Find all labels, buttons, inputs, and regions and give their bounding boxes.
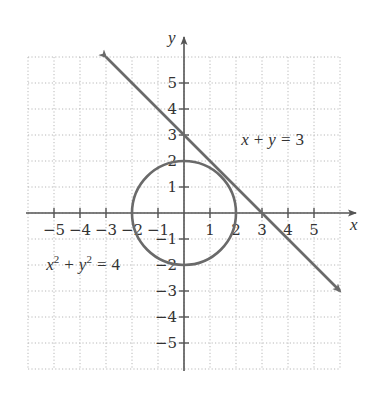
x-tick-label: 1 (205, 221, 215, 239)
y-tick-label: 3 (167, 126, 177, 144)
circle-equation-label: x2+y2=4 (45, 253, 120, 274)
y-axis-label: y (166, 28, 176, 47)
x-tick-label: −5 (43, 221, 65, 239)
y-tick-label: −1 (155, 230, 177, 248)
y-tick-label: 1 (167, 178, 177, 196)
x-tick-label: −4 (69, 221, 91, 239)
y-tick-label: −3 (155, 282, 177, 300)
x-tick-label: 5 (309, 221, 319, 239)
y-tick-label: −5 (155, 334, 177, 352)
graph-canvas: −5−4−3−2−11234554321−1−2−3−4−5 x y x+y=3… (0, 0, 377, 393)
y-tick-label: 5 (167, 74, 177, 92)
x-axis-label: x (349, 215, 358, 234)
x-tick-label: 3 (257, 221, 267, 239)
line-x-plus-y-3 (106, 57, 340, 291)
line-equation-label: x+y=3 (240, 130, 304, 149)
y-tick-label: −4 (155, 308, 177, 326)
x-tick-label: −3 (95, 221, 117, 239)
y-tick-label: 4 (167, 100, 177, 118)
